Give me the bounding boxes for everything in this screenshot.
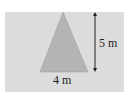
- height-label: 5 m: [99, 36, 117, 51]
- isosceles-triangle: [40, 12, 88, 72]
- height-arrow-icon: [93, 12, 97, 72]
- base-label: 4 m: [53, 73, 71, 88]
